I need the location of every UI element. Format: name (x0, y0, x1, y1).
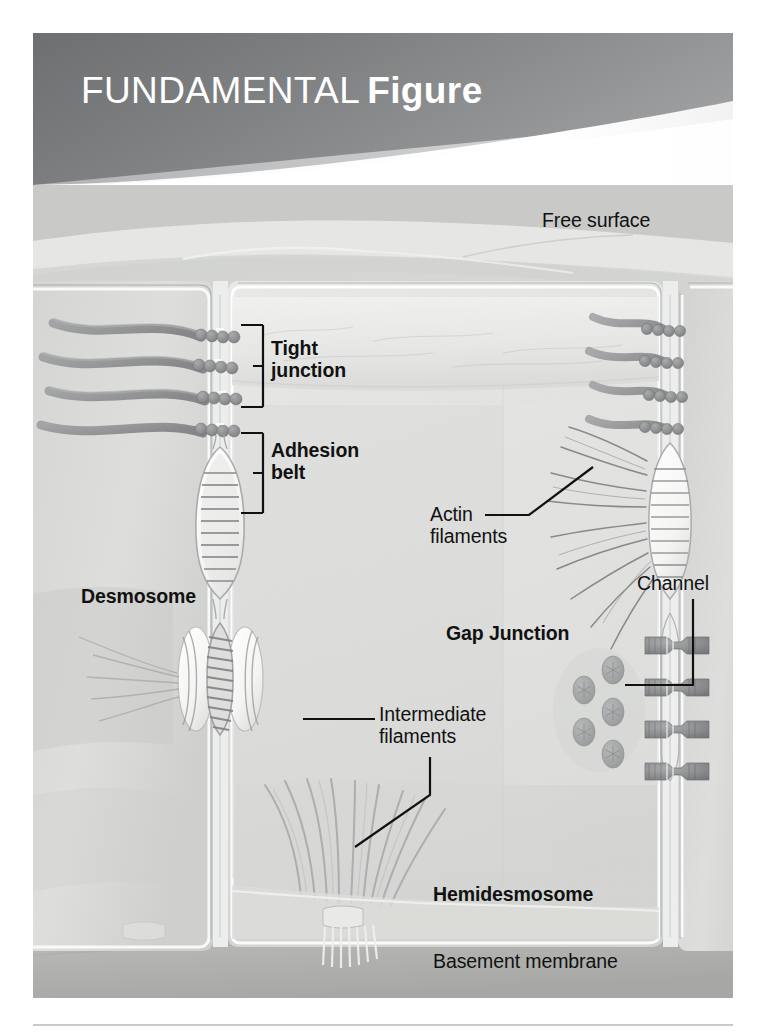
cell-junction-illustration (33, 185, 733, 998)
header-banner: FUNDAMENTALFigure (33, 33, 733, 185)
header-title-light: FUNDAMENTAL (81, 70, 360, 111)
figure-illustration-panel: Free surface Tight junction Adhesion bel… (33, 185, 733, 998)
header-title: FUNDAMENTALFigure (81, 69, 483, 113)
figure-page: FUNDAMENTALFigure (0, 0, 766, 1035)
header-title-bold: Figure (367, 70, 482, 111)
left-cell (33, 281, 213, 951)
right-cell (678, 281, 733, 951)
bottom-divider (33, 1024, 733, 1026)
